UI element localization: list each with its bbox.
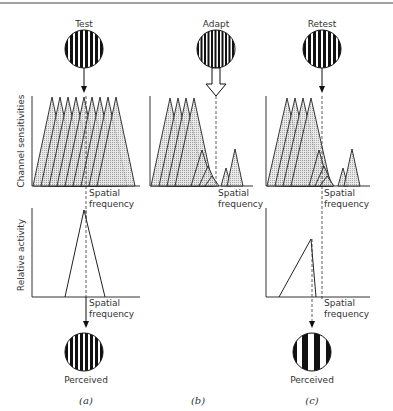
- perceived-grating-a-icon: [65, 333, 103, 371]
- b-xlabel-1: Spatial: [218, 188, 249, 198]
- c-xlabel-2: frequency: [324, 199, 370, 209]
- arrow-down-icon: [81, 86, 87, 93]
- adapt-label: Adapt: [203, 19, 230, 29]
- c-bottom-xlabel-2: frequency: [324, 309, 370, 319]
- hollow-arrow-down-icon: [206, 68, 226, 96]
- arrow-down-icon: [319, 86, 325, 93]
- caption-c: (c): [305, 395, 319, 406]
- a-xlabel-1: Spatial: [89, 188, 120, 198]
- panel-b-channel-plot: [150, 96, 253, 186]
- caption-b: (b): [191, 395, 205, 406]
- a-xlabel-2: frequency: [89, 199, 135, 209]
- a-bottom-xlabel-1: Spatial: [89, 298, 120, 308]
- retest-label: Retest: [308, 19, 337, 29]
- arrow-down-icon: [309, 321, 315, 328]
- a-bottom-xlabel-2: frequency: [89, 309, 135, 319]
- perceived-label-c: Perceived: [290, 375, 334, 385]
- bottom-ylabel: Relative activity: [16, 218, 26, 291]
- test-label: Test: [74, 19, 93, 29]
- retest-grating-icon: [303, 30, 341, 68]
- adapt-grating-icon: [197, 30, 235, 68]
- panel-c-channel-plot: [266, 96, 370, 300]
- perceived-label-a: Perceived: [64, 375, 108, 385]
- c-bottom-xlabel-1: Spatial: [324, 298, 355, 308]
- arrow-down-icon: [83, 321, 89, 328]
- top-ylabel: Channel sensitivities: [16, 94, 26, 187]
- perceived-grating-c-icon: [291, 333, 332, 371]
- b-xlabel-2: frequency: [218, 199, 264, 209]
- caption-a: (a): [79, 395, 93, 406]
- adaptation-diagram: Test Adapt Retest: [0, 0, 393, 411]
- test-grating-icon: [65, 30, 103, 68]
- c-xlabel-1: Spatial: [324, 188, 355, 198]
